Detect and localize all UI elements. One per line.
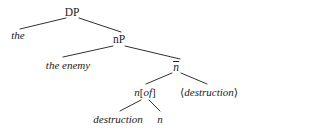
branch-np-to-nbar: [125, 46, 180, 59]
node-little-n-feature-of: of: [143, 86, 152, 98]
node-n-bar-letter: n: [173, 61, 179, 74]
syntax-tree-figure: DP the nP the enemy n n[of] ⟨destruction…: [0, 0, 309, 136]
copy-angle-bracket-close: ⟩: [234, 86, 238, 98]
node-unpronounced-copy-destruction: ⟨destruction⟩: [180, 87, 238, 98]
branch-nbar-to-n-of: [146, 73, 172, 84]
node-determiner-the: the: [11, 30, 24, 41]
node-root-destruction: destruction: [93, 114, 143, 125]
node-dp: DP: [65, 7, 80, 19]
branch-n-of-to-moved-n: [149, 100, 160, 111]
copy-text: destruction: [184, 86, 234, 98]
branch-n-of-to-root-noun: [120, 100, 141, 111]
branch-dp-to-the: [20, 18, 66, 29]
branch-nbar-to-copy: [181, 73, 207, 84]
node-little-n-bracket-close: ]: [152, 86, 156, 98]
node-little-n-of: n[of]: [134, 87, 155, 98]
node-moved-little-n: n: [157, 114, 163, 125]
node-n-bar: n: [173, 61, 179, 74]
branch-dp-to-np: [79, 18, 121, 32]
node-subject-the-enemy: the enemy: [46, 60, 90, 71]
node-np: nP: [113, 34, 125, 46]
branch-np-to-subject: [63, 46, 113, 57]
